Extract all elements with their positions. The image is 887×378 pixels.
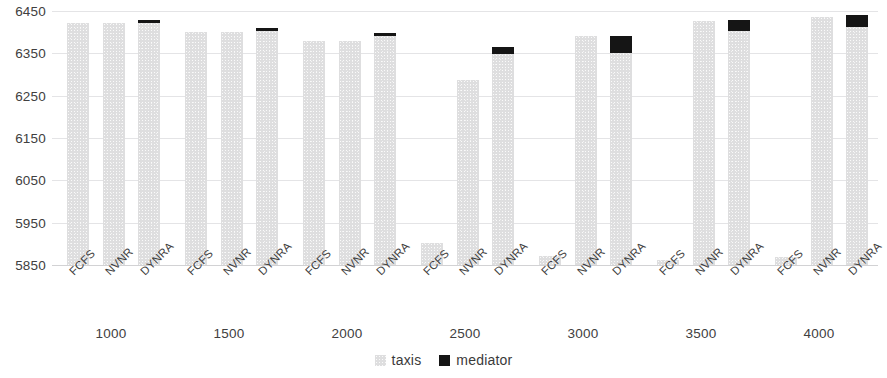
bar-column: [185, 11, 207, 265]
bar-column: [256, 11, 278, 265]
y-axis-tick-label: 6150: [15, 131, 46, 146]
bar-segment-taxis: [303, 41, 325, 265]
bar-column: [775, 11, 797, 265]
bar-column: [138, 11, 160, 265]
bar-column: [457, 11, 479, 265]
bar-column: [303, 11, 325, 265]
bar-segment-taxis: [103, 23, 125, 265]
bar-segment-taxis: [811, 17, 833, 265]
y-axis: 6450635062506150605059505850: [0, 0, 52, 378]
bar-segment-mediator: [374, 33, 396, 36]
legend-item-taxis[interactable]: taxis: [375, 352, 422, 368]
bar-segment-taxis: [457, 80, 479, 265]
bar-column: [539, 11, 561, 265]
x-axis-group-label: 1000: [96, 326, 127, 341]
legend-swatch-mediator: [439, 355, 450, 366]
bar-column: [492, 11, 514, 265]
x-axis-group-label: 3000: [568, 326, 599, 341]
bar-segment-mediator: [728, 20, 750, 31]
y-axis-tick-label: 6450: [15, 4, 46, 19]
bar-segment-taxis: [185, 32, 207, 265]
bar-column: [103, 11, 125, 265]
bar-column: [421, 11, 443, 265]
chart-legend: taxismediator: [0, 352, 887, 368]
bar-column: [846, 11, 868, 265]
bar-segment-taxis: [575, 36, 597, 265]
bar-segment-mediator: [610, 36, 632, 53]
bar-segment-mediator: [138, 20, 160, 23]
y-axis-tick-label: 5850: [15, 258, 46, 273]
x-axis-group-label: 2000: [332, 326, 363, 341]
bar-chart: 6450635062506150605059505850 FCFSNVNRDYN…: [0, 0, 887, 378]
legend-item-mediator[interactable]: mediator: [439, 352, 512, 368]
bar-segment-mediator: [846, 15, 868, 27]
x-axis-labels: FCFSNVNRDYNRAFCFSNVNRDYNRAFCFSNVNRDYNRAF…: [52, 265, 878, 317]
bar-segment-taxis: [846, 27, 868, 265]
bar-segment-taxis: [728, 31, 750, 265]
y-axis-tick-label: 6250: [15, 88, 46, 103]
bars-layer: [52, 11, 878, 265]
bar-segment-taxis: [256, 31, 278, 265]
bar-segment-taxis: [492, 54, 514, 265]
x-axis-group-label: 3500: [686, 326, 717, 341]
bar-column: [811, 11, 833, 265]
legend-swatch-taxis: [375, 355, 386, 366]
y-axis-tick-label: 6350: [15, 46, 46, 61]
bar-segment-taxis: [693, 21, 715, 265]
bar-column: [339, 11, 361, 265]
bar-segment-taxis: [610, 53, 632, 265]
bar-segment-mediator: [492, 47, 514, 54]
bar-segment-taxis: [374, 36, 396, 265]
y-axis-tick-label: 5950: [15, 215, 46, 230]
bar-column: [728, 11, 750, 265]
y-axis-tick-label: 6050: [15, 173, 46, 188]
bar-segment-mediator: [256, 28, 278, 31]
bar-column: [657, 11, 679, 265]
bar-segment-taxis: [138, 23, 160, 265]
bar-column: [374, 11, 396, 265]
bar-column: [67, 11, 89, 265]
plot-area: [52, 11, 878, 265]
bar-segment-taxis: [67, 23, 89, 265]
x-axis-group-label: 2500: [450, 326, 481, 341]
bar-column: [610, 11, 632, 265]
x-axis-group-label: 1500: [214, 326, 245, 341]
x-axis-group-labels: 1000150020002500300035004000: [52, 326, 878, 348]
x-axis-group-label: 4000: [804, 326, 835, 341]
legend-label-taxis: taxis: [392, 352, 422, 368]
bar-column: [693, 11, 715, 265]
bar-column: [575, 11, 597, 265]
legend-label-mediator: mediator: [456, 352, 512, 368]
bar-column: [221, 11, 243, 265]
bar-segment-taxis: [221, 32, 243, 265]
bar-segment-taxis: [339, 41, 361, 265]
